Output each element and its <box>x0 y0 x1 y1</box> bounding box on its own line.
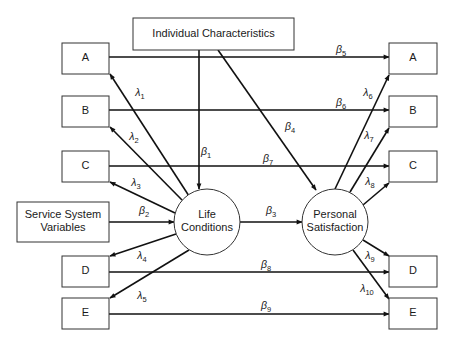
node-label: C <box>409 159 417 171</box>
node-label: Variables <box>40 221 86 233</box>
node-rc: C <box>389 151 437 182</box>
node-label: Conditions <box>181 221 233 233</box>
node-le: E <box>62 298 109 329</box>
edge-label-beta-8: β8 <box>260 258 271 273</box>
edge-label-lambda-7: λ7 <box>363 129 373 144</box>
node-lb: B <box>62 96 109 127</box>
edge-label-lambda-1: λ1 <box>134 86 144 101</box>
node-label: A <box>82 51 90 63</box>
edge-labels-layer: β1β2β3β4β5β6β7β8β9λ1λ2λ3λ4λ5λ6λ7λ8λ9λ10 <box>128 43 374 314</box>
node-ra: A <box>389 43 437 74</box>
edge-lambda-4 <box>110 234 176 256</box>
edge-label-lambda-9: λ9 <box>364 249 374 264</box>
edge-label-beta-4: β4 <box>284 120 295 135</box>
node-ic: Individual Characteristics <box>133 18 294 50</box>
node-re: E <box>389 298 437 329</box>
node-ld: D <box>62 256 109 287</box>
node-rd: D <box>389 256 437 287</box>
node-label: B <box>409 104 416 116</box>
edge-label-beta-7: β7 <box>262 152 273 167</box>
edge-lambda-5 <box>110 250 189 298</box>
edges-layer <box>109 50 389 314</box>
edge-label-lambda-4: λ4 <box>136 249 146 264</box>
node-label: E <box>82 306 89 318</box>
edge-label-beta-6: β6 <box>335 96 346 111</box>
path-diagram: Individual CharacteristicsService System… <box>0 0 451 344</box>
edge-lambda-1 <box>110 74 189 196</box>
edge-label-lambda-8: λ8 <box>364 175 374 190</box>
node-label: E <box>409 306 416 318</box>
nodes-layer: Individual CharacteristicsService System… <box>17 18 437 329</box>
edge-label-beta-3: β3 <box>265 204 276 219</box>
node-label: Life <box>198 208 216 220</box>
node-label: C <box>82 159 90 171</box>
node-label: Individual Characteristics <box>152 27 275 39</box>
node-label: D <box>82 264 90 276</box>
node-ssv: Service SystemVariables <box>17 202 109 242</box>
edge-label-beta-2: β2 <box>138 204 149 219</box>
edge-label-beta-1: β1 <box>200 145 211 160</box>
edge-label-lambda-6: λ6 <box>362 86 372 101</box>
node-label: Satisfaction <box>307 221 364 233</box>
edge-label-beta-9: β9 <box>260 299 271 314</box>
node-la: A <box>62 43 109 74</box>
node-label: Service System <box>25 208 101 220</box>
edge-lambda-2 <box>110 127 182 200</box>
node-lcc: C <box>62 151 109 182</box>
node-label: B <box>82 104 89 116</box>
edge-label-lambda-3: λ3 <box>130 176 140 191</box>
edge-label-lambda-5: λ5 <box>136 289 146 304</box>
node-rb: B <box>389 96 437 127</box>
node-label: A <box>409 51 417 63</box>
node-label: Personal <box>313 208 356 220</box>
edge-label-lambda-10: λ10 <box>359 282 374 297</box>
node-ps: PersonalSatisfaction <box>302 189 368 255</box>
edge-beta-4 <box>218 50 316 190</box>
edge-label-lambda-2: λ2 <box>128 130 138 145</box>
node-lc: LifeConditions <box>174 189 240 255</box>
node-label: D <box>409 264 417 276</box>
edge-label-beta-5: β5 <box>335 43 346 58</box>
